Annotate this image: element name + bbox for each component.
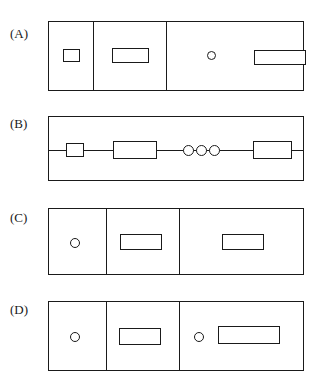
panel-d-rect-4 [218, 326, 280, 344]
figure-canvas: (A)(B)(C)(D) [0, 0, 321, 392]
panel-b-circle-4 [196, 145, 207, 156]
panel-label-a: (A) [10, 27, 28, 40]
panel-b-circle-5 [209, 145, 220, 156]
panel-c-container [48, 208, 304, 275]
panel-c-divider-2 [179, 209, 180, 274]
panel-c-divider-1 [106, 209, 107, 274]
panel-a-rect-2 [112, 48, 149, 63]
panel-a-circle-3 [207, 51, 216, 60]
panel-label-b: (B) [10, 117, 27, 130]
panel-a-divider-2 [166, 22, 167, 90]
panel-c-circle-1 [70, 238, 80, 248]
panel-a-rect-1 [63, 49, 80, 62]
panel-d-divider-2 [179, 302, 180, 370]
panel-c-rect-3 [222, 234, 264, 250]
panel-d-divider-1 [106, 302, 107, 370]
panel-a-divider-1 [93, 22, 94, 90]
panel-label-d: (D) [10, 303, 28, 316]
panel-b-rect-2 [113, 141, 157, 159]
panel-b-rect-6 [253, 141, 292, 159]
panel-b-rect-1 [66, 143, 84, 157]
panel-b-circle-3 [183, 145, 194, 156]
panel-label-c: (C) [10, 211, 27, 224]
panel-a-rect-4 [254, 50, 306, 65]
panel-d-circle-3 [194, 332, 204, 342]
panel-c-rect-2 [120, 234, 162, 250]
panel-d-circle-1 [70, 332, 80, 342]
panel-d-rect-2 [119, 328, 161, 345]
